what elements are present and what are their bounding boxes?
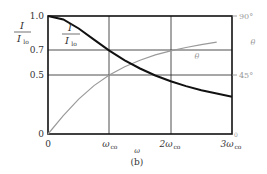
xtick-label-2wco: 2ω co (158, 139, 180, 150)
xtick-3wco-main: 3ω (220, 139, 234, 149)
y-label-denominator: I (16, 33, 22, 44)
x-axis-label: ω (134, 147, 140, 155)
current-ratio-curve (48, 16, 232, 97)
xtick-wco-main: ω (102, 139, 110, 149)
tick-label-90deg: 90° (239, 12, 253, 21)
y-axis-label-right: θ (251, 38, 256, 47)
xtick-2wco-sub: co (174, 143, 181, 150)
xtick-label-wco: ω co (102, 139, 118, 150)
y-label-denominator-sub: lo (23, 38, 29, 45)
curve-label-denominator-sub: lo (71, 40, 77, 47)
xtick-label-3wco: 3ω co (220, 139, 241, 150)
tick-label-45deg: 45° (239, 71, 253, 80)
chart: 1.0 0.7 0.5 0 I I lo I I lo θ θ 90° 45° … (0, 0, 267, 174)
tick-label-0: 0 (38, 129, 44, 139)
figure-caption: (b) (131, 157, 144, 167)
tick-label-0-7: 0.7 (30, 45, 45, 55)
tick-label-0-5: 0.5 (30, 70, 45, 80)
xtick-3wco-sub: co (235, 143, 242, 150)
xtick-2wco-main: 2ω (158, 139, 173, 149)
curve-label-denominator: I (64, 35, 70, 46)
curve-label-theta: θ (195, 52, 200, 61)
xtick-label-0: 0 (45, 139, 51, 149)
y-axis-label-left: I I lo (14, 20, 31, 45)
tick-label-1-0: 1.0 (30, 11, 45, 21)
curve-label-current: I I lo (62, 22, 80, 47)
tick-label-right-0: 0 (234, 131, 238, 138)
xtick-wco-sub: co (111, 143, 118, 150)
y-label-numerator: I (19, 20, 25, 31)
